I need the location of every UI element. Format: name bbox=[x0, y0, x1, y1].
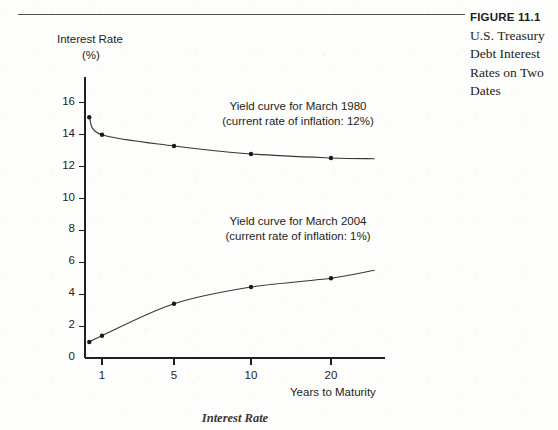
y-tick-label: 6 bbox=[37, 254, 75, 266]
annotation-2004-line-2: (current rate of inflation: 1%) bbox=[198, 229, 398, 244]
y-tick-label: 14 bbox=[37, 127, 75, 139]
series-annotation-1980: Yield curve for March 1980 (current rate… bbox=[198, 99, 398, 129]
annotation-1980-line-1: Yield curve for March 1980 bbox=[198, 99, 398, 114]
figure-title-line-3: Rates on Two bbox=[470, 64, 556, 83]
figure-title-line-2: Debt Interest bbox=[470, 45, 556, 64]
x-tick-label: 5 bbox=[149, 369, 199, 381]
series-annotation-2004: Yield curve for March 2004 (current rate… bbox=[198, 214, 398, 244]
y-tick-label: 2 bbox=[37, 318, 75, 330]
y-tick-label: 0 bbox=[37, 350, 75, 362]
data-point-marker bbox=[329, 156, 333, 160]
figure-caption: FIGURE 11.1 U.S. Treasury Debt Interest … bbox=[470, 8, 556, 101]
y-axis-title-line-2: (%) bbox=[82, 49, 100, 61]
series-2004 bbox=[87, 270, 374, 344]
data-point-marker bbox=[249, 285, 253, 289]
y-tick-label: 10 bbox=[37, 191, 75, 203]
x-tick-label: 10 bbox=[226, 369, 276, 381]
data-point-marker bbox=[329, 276, 333, 280]
y-axis-title-line-1: Interest Rate bbox=[57, 33, 123, 45]
data-point-marker bbox=[172, 302, 176, 306]
data-point-marker bbox=[249, 152, 253, 156]
data-point-marker bbox=[87, 115, 91, 119]
data-point-marker bbox=[100, 133, 104, 137]
y-tick-label: 8 bbox=[37, 222, 75, 234]
x-tick-label: 20 bbox=[306, 369, 356, 381]
yield-curve-chart: Interest Rate (%) Years to Maturity 0246… bbox=[0, 0, 470, 430]
footer-note: Interest Rate bbox=[0, 411, 470, 423]
data-point-marker bbox=[172, 144, 176, 148]
y-tick-label: 4 bbox=[37, 286, 75, 298]
y-tick-label: 12 bbox=[37, 159, 75, 171]
figure-title-line-4: Dates bbox=[470, 82, 556, 101]
figure-title-line-1: U.S. Treasury bbox=[470, 27, 556, 46]
annotation-2004-line-1: Yield curve for March 2004 bbox=[198, 214, 398, 229]
x-tick-label: 1 bbox=[77, 369, 127, 381]
data-point-marker bbox=[87, 340, 91, 344]
x-axis-title: Years to Maturity bbox=[290, 386, 376, 398]
figure-number-label: FIGURE 11.1 bbox=[470, 8, 556, 27]
series-line bbox=[89, 270, 374, 342]
data-point-marker bbox=[100, 333, 104, 337]
y-tick-label: 16 bbox=[37, 95, 75, 107]
annotation-1980-line-2: (current rate of inflation: 12%) bbox=[198, 114, 398, 129]
